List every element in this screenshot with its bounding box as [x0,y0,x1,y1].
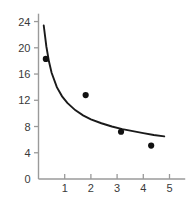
data-point [83,92,89,98]
y-tick-label: 16 [18,68,30,80]
x-tick-label: 4 [140,182,146,194]
y-axis-tick-labels: 04812162024 [18,16,30,185]
y-tick-label: 0 [24,173,30,185]
x-tick-label: 5 [166,182,172,194]
x-axis-tick-labels: 12345 [62,182,173,194]
fitted-curve [44,26,165,137]
x-tick-label: 3 [114,182,120,194]
data-point [43,56,49,62]
x-tick-label: 1 [62,182,68,194]
y-tick-label: 24 [18,16,30,28]
chart-container: 04812162024 12345 [0,0,186,200]
data-point [148,142,154,148]
scatter-plot-svg: 04812162024 12345 [0,0,186,200]
data-point [118,129,124,135]
y-tick-label: 8 [24,121,30,133]
y-tick-label: 4 [24,147,30,159]
x-axis-tick-marks [65,174,170,179]
data-points [43,56,155,149]
x-tick-label: 2 [88,182,94,194]
y-tick-label: 12 [18,94,30,106]
y-tick-label: 20 [18,42,30,54]
